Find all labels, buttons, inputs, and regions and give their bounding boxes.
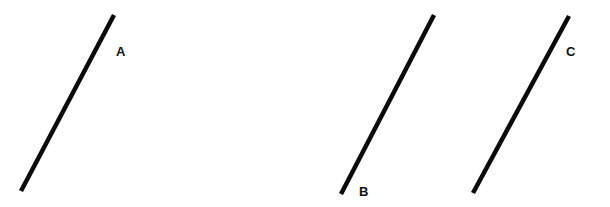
label-c: C (566, 45, 575, 58)
diagram-canvas (0, 0, 610, 207)
line-b (341, 15, 434, 194)
label-b: B (359, 185, 368, 198)
line-a (21, 15, 114, 191)
label-a: A (116, 45, 125, 58)
line-c (473, 16, 569, 193)
